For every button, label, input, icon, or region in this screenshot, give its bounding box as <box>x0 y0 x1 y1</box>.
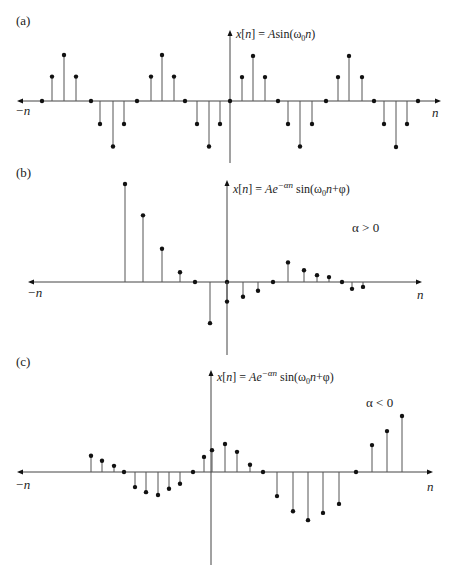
stem-marker <box>327 275 331 279</box>
panel-b-formula: x[n] = Ae−αn sin(ω0n+φ) <box>233 181 350 198</box>
panel-c-formula: x[n] = Ae−αn sin(ω0n+φ) <box>217 369 334 386</box>
stem-marker <box>149 74 153 78</box>
stem-marker <box>354 470 358 474</box>
stem-marker <box>89 454 93 458</box>
stem-marker <box>276 99 280 103</box>
stem-marker <box>298 144 302 148</box>
formula-fn: sin(ω <box>275 27 301 41</box>
up-arrow-icon <box>228 30 233 36</box>
stem-marker <box>111 144 115 148</box>
stem-marker <box>263 75 267 79</box>
stem-marker <box>144 490 148 494</box>
stem-marker <box>167 487 171 491</box>
stem-marker <box>172 74 176 78</box>
stem-marker <box>210 448 214 452</box>
stem-marker <box>98 122 102 126</box>
left-arrow-icon <box>17 470 23 475</box>
stem-marker <box>160 53 164 57</box>
stem-marker <box>315 273 319 277</box>
formula-lhs: x[n] = <box>236 27 268 41</box>
stem-marker <box>405 122 409 126</box>
stem-marker <box>202 455 206 459</box>
stem-marker <box>350 287 354 291</box>
stem-marker <box>336 75 340 79</box>
formula-amp: Ae <box>265 182 278 196</box>
stem-marker <box>291 509 295 513</box>
stem-marker <box>178 482 182 486</box>
stem-marker <box>372 99 376 103</box>
right-arrow-icon <box>427 470 433 475</box>
stem-marker <box>122 122 126 126</box>
stem-marker <box>347 54 351 58</box>
stem-marker <box>191 470 195 474</box>
stem-marker <box>385 429 389 433</box>
stem-marker <box>361 285 365 289</box>
panel-b-label: (b) <box>16 166 31 179</box>
panel-c-n-label: n <box>427 480 434 493</box>
stem-marker <box>248 463 252 467</box>
stem-marker <box>50 74 54 78</box>
stem-marker <box>241 295 245 299</box>
formula-exp: −αn <box>278 180 293 190</box>
stem-marker <box>251 54 255 58</box>
stem-marker <box>218 122 222 126</box>
stem-marker <box>225 299 229 303</box>
stem-marker <box>89 99 93 103</box>
stem-marker <box>324 99 328 103</box>
stem-marker <box>286 260 290 264</box>
panel-c-label: (c) <box>16 355 30 368</box>
panel-a-n-label: n <box>432 106 439 119</box>
stem-marker <box>275 494 279 498</box>
stem-marker <box>302 268 306 272</box>
stem-marker <box>193 280 197 284</box>
stem-marker <box>223 442 227 446</box>
stem-plot-figure <box>0 0 450 569</box>
stem-marker <box>261 470 265 474</box>
stem-marker <box>160 246 164 250</box>
stem-marker <box>183 99 187 103</box>
stem-marker <box>62 53 66 57</box>
stem-marker <box>235 450 239 454</box>
stem-marker <box>394 145 398 149</box>
panel-a-plot <box>17 30 441 163</box>
stem-marker <box>271 280 275 284</box>
panel-b-n-label: n <box>417 288 424 301</box>
formula-amp: Ae <box>249 370 262 384</box>
stem-marker <box>382 122 386 126</box>
stem-marker <box>321 511 325 515</box>
stem-marker <box>74 74 78 78</box>
panel-b-neg-n-label: −n <box>27 286 42 299</box>
stem-marker <box>100 459 104 463</box>
stem-marker <box>360 75 364 79</box>
panel-c-neg-n-label: −n <box>15 478 30 491</box>
stem-marker <box>135 99 139 103</box>
stem-marker <box>310 122 314 126</box>
stem-marker <box>337 502 341 506</box>
panel-b-condition: α > 0 <box>352 221 379 234</box>
up-arrow-icon <box>209 370 214 376</box>
stem-marker <box>178 270 182 274</box>
stem-marker <box>240 75 244 79</box>
up-arrow-icon <box>225 180 230 186</box>
stem-marker <box>156 493 160 497</box>
stem-marker <box>370 443 374 447</box>
panel-b-plot <box>28 180 422 355</box>
stem-marker <box>112 464 116 468</box>
stem-marker <box>208 321 212 325</box>
stem-marker <box>306 518 310 522</box>
right-arrow-icon <box>416 280 422 285</box>
stem-marker <box>40 99 44 103</box>
stem-marker <box>141 213 145 217</box>
stem-marker <box>123 182 127 186</box>
stem-marker <box>122 470 126 474</box>
stem-marker <box>195 122 199 126</box>
right-arrow-icon <box>435 99 441 104</box>
stem-marker <box>400 414 404 418</box>
stem-marker <box>207 144 211 148</box>
stem-marker <box>133 485 137 489</box>
stem-marker <box>286 122 290 126</box>
stem-marker <box>416 99 420 103</box>
panel-a-neg-n-label: −n <box>15 104 30 117</box>
formula-exp: −αn <box>262 368 277 378</box>
panel-a-label: (a) <box>16 14 30 27</box>
